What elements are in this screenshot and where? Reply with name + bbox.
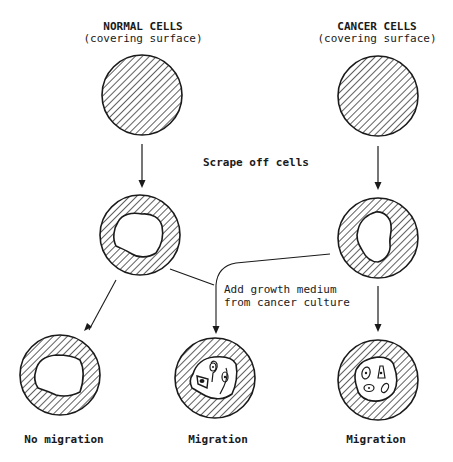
migration-cancer-dish: [338, 340, 418, 420]
cancer-cells-dish: [338, 56, 418, 136]
normal-cells-dish: [102, 55, 182, 135]
diagram-graphics: [0, 0, 453, 462]
no-migration-dish: [20, 335, 100, 415]
outcome-migration-normal: Migration: [188, 433, 248, 446]
normal-cells-subtitle: (covering surface): [83, 32, 202, 45]
arrow-to-no-migration: [89, 280, 116, 330]
normal-scraped-dish: [100, 195, 180, 275]
outcome-migration-cancer: Migration: [346, 433, 406, 446]
add-medium-label-line1: Add growth medium: [224, 283, 337, 296]
connector-normal-to-junction: [170, 269, 214, 285]
outcome-no-migration: No migration: [24, 433, 103, 446]
add-medium-label-line2: from cancer culture: [224, 296, 350, 309]
cancer-scraped-dish: [338, 198, 418, 278]
diagram-canvas: NORMAL CELLS (covering surface) CANCER C…: [0, 0, 453, 462]
cancer-cells-subtitle: (covering surface): [317, 32, 436, 45]
scrape-step-label: Scrape off cells: [203, 156, 309, 169]
migration-normal-dish: [175, 338, 255, 418]
